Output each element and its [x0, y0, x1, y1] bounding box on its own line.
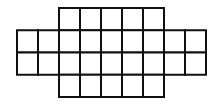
grid-cell — [122, 53, 143, 75]
grid-cell — [101, 8, 122, 30]
grid-cell — [59, 53, 80, 75]
grid-cell — [143, 53, 164, 75]
grid-diagram — [0, 0, 220, 106]
grid-cell — [143, 75, 164, 97]
grid-row-0 — [59, 8, 164, 30]
grid-cell — [164, 30, 185, 52]
grid-cell — [17, 30, 38, 52]
grid-cell — [185, 30, 206, 52]
grid-cell — [185, 53, 206, 75]
grid-cell — [80, 75, 101, 97]
grid-cell — [59, 30, 80, 52]
grid-cell — [80, 53, 101, 75]
grid-cell — [80, 8, 101, 30]
grid-cell — [143, 8, 164, 30]
grid-cell — [164, 53, 185, 75]
grid-row-3 — [59, 75, 164, 97]
grid-cell — [101, 53, 122, 75]
grid-cell — [59, 75, 80, 97]
grid-cell — [17, 53, 38, 75]
grid-cell — [143, 30, 164, 52]
grid-cell — [101, 30, 122, 52]
grid-cell — [80, 30, 101, 52]
grid-cell — [122, 75, 143, 97]
grid-row-2 — [17, 53, 206, 75]
grid-cell — [101, 75, 122, 97]
grid-cell — [59, 8, 80, 30]
grid-cell — [38, 30, 59, 52]
grid-cell — [122, 30, 143, 52]
grid-cell — [38, 53, 59, 75]
grid-row-1 — [17, 30, 206, 52]
grid-cell — [122, 8, 143, 30]
